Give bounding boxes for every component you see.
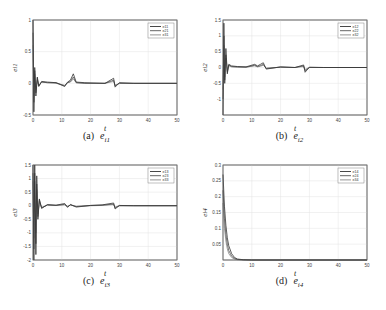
y-tick-label: -1 (27, 230, 31, 235)
x-tick-label: 10 (59, 263, 65, 268)
x-tick-label: 10 (59, 118, 65, 123)
x-tick-label: 50 (364, 118, 370, 123)
x-tick-label: 50 (174, 118, 180, 123)
y-tick-label: 0.1 (215, 226, 222, 231)
y-tick-label: 0.15 (212, 210, 221, 215)
panel-d: 010203040500.050.10.150.20.250.3tei4e14e… (193, 155, 386, 310)
legend-entry: e32 (353, 33, 359, 37)
legend-entry: e34 (353, 178, 359, 182)
y-axis-label: ei2 (201, 63, 209, 72)
legend-entry: e33 (163, 178, 169, 182)
x-tick-label: 20 (278, 118, 284, 123)
y-tick-label: 0.5 (25, 190, 32, 195)
x-tick-label: 30 (117, 263, 123, 268)
x-tick-label: 10 (249, 263, 255, 268)
x-tick-label: 0 (222, 263, 225, 268)
x-tick-label: 0 (32, 118, 35, 123)
x-tick-label: 30 (307, 263, 313, 268)
y-axis-label: ei3 (11, 208, 19, 217)
caption-var: ei3 (100, 275, 110, 286)
caption-b: (b)ei2 (193, 130, 386, 144)
legend: e14e24e34 (338, 168, 364, 183)
panel-b: 01020304050-1-0.500.511.5tei2e12e22e32 (… (193, 0, 386, 155)
caption-label: (d) (276, 275, 288, 286)
caption-label: (c) (83, 275, 94, 286)
caption-d: (d)ei4 (193, 275, 386, 289)
x-tick-label: 40 (336, 263, 342, 268)
x-tick-label: 40 (336, 118, 342, 123)
x-tick-label: 20 (88, 118, 94, 123)
y-tick-label: -1.5 (23, 244, 31, 249)
legend: e12e22e32 (338, 23, 364, 38)
caption-var: ei4 (293, 275, 303, 286)
y-tick-label: 0.05 (212, 242, 221, 247)
y-tick-label: 0 (28, 203, 31, 208)
x-tick-label: 20 (278, 263, 284, 268)
x-tick-label: 50 (174, 263, 180, 268)
y-tick-label: 0 (218, 65, 221, 70)
y-tick-label: 0.2 (215, 194, 222, 199)
x-tick-label: 40 (146, 263, 152, 268)
legend-entry: e31 (163, 33, 169, 37)
y-tick-label: 1.5 (25, 163, 32, 168)
x-tick-label: 50 (364, 263, 370, 268)
y-tick-label: 1 (28, 18, 31, 23)
caption-c: (c)ei3 (0, 275, 193, 289)
y-axis-label: ei1 (11, 63, 19, 72)
x-tick-label: 20 (88, 263, 94, 268)
legend: e11e21e31 (148, 23, 174, 38)
y-tick-label: 0.5 (25, 49, 32, 54)
y-tick-label: 0.3 (215, 163, 222, 168)
y-tick-label: 0.5 (215, 49, 222, 54)
y-tick-label: 1 (218, 33, 221, 38)
y-tick-label: -2 (27, 258, 31, 263)
legend: e13e23e33 (148, 168, 174, 183)
caption-var: ei2 (293, 130, 303, 141)
caption-label: (a) (83, 130, 94, 141)
y-tick-label: -1 (217, 97, 221, 102)
y-tick-label: -0.5 (213, 81, 221, 86)
x-tick-label: 40 (146, 118, 152, 123)
caption-var: ei1 (100, 130, 110, 141)
y-tick-label: 1.5 (215, 18, 222, 23)
y-axis-label: ei4 (201, 208, 209, 217)
caption-a: (a)ei1 (0, 130, 193, 144)
x-tick-label: 30 (307, 118, 313, 123)
panel-c: 01020304050-2-1.5-1-0.500.511.5tei3e13e2… (0, 155, 193, 310)
x-tick-label: 0 (222, 118, 225, 123)
y-tick-label: -0.5 (23, 113, 31, 118)
caption-label: (b) (276, 130, 288, 141)
x-tick-label: 30 (117, 118, 123, 123)
y-tick-label: 1 (28, 176, 31, 181)
y-tick-label: -0.5 (23, 217, 31, 222)
y-tick-label: 0 (28, 81, 31, 86)
y-tick-label: 0.25 (212, 178, 221, 183)
x-tick-label: 0 (32, 263, 35, 268)
x-tick-label: 10 (249, 118, 255, 123)
panel-a: 01020304050-0.500.51tei1e11e21e31 (a)ei1 (0, 0, 193, 155)
